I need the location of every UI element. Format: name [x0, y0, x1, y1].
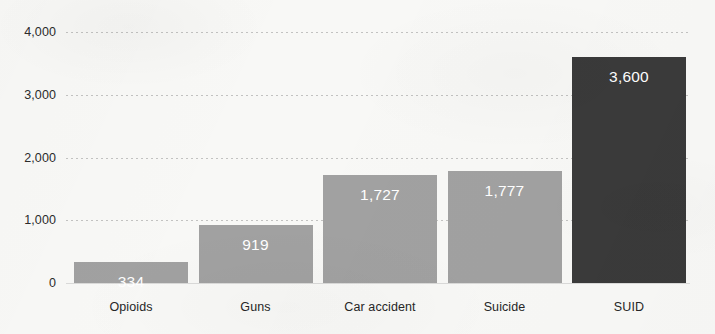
plot-area: 01,0002,0003,0004,000 3349191,7271,7773,…: [0, 0, 715, 334]
x-axis-label-suicide: Suicide: [448, 301, 562, 314]
bar-value-label: 334: [74, 274, 188, 290]
gridline-4000: [66, 32, 690, 33]
y-axis-tick-label: 3,000: [0, 89, 56, 102]
y-axis-tick-label: 0: [0, 277, 56, 290]
y-axis-tick-label: 2,000: [0, 152, 56, 165]
bar-chart: 01,0002,0003,0004,000 3349191,7271,7773,…: [0, 0, 715, 334]
bar-value-label: 919: [199, 237, 313, 253]
x-axis-label-suid: SUID: [572, 301, 686, 314]
x-axis-label-car-accident: Car accident: [323, 301, 437, 314]
y-axis-tick-label: 1,000: [0, 214, 56, 227]
bar-value-label: 1,727: [323, 187, 437, 203]
bar-value-label: 1,777: [448, 183, 562, 199]
x-axis-label-guns: Guns: [199, 301, 313, 314]
bar-value-label: 3,600: [572, 69, 686, 85]
x-axis-label-opioids: Opioids: [74, 301, 188, 314]
y-axis-tick-label: 4,000: [0, 26, 56, 39]
bar-suid[interactable]: [572, 57, 686, 283]
bar-guns[interactable]: [199, 225, 313, 283]
